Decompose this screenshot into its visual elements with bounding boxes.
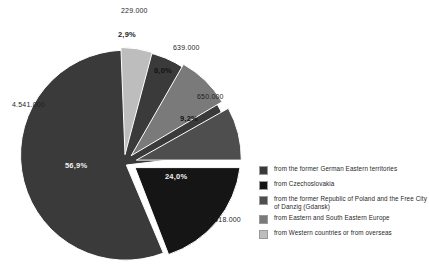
value-label-229000: 229.000 (121, 7, 148, 14)
legend-swatch-icon (259, 196, 268, 205)
percent-label-56-9: 56,9% (65, 161, 87, 170)
pie-graphic: 229.000 639.000 650.000 1.918.000 4.541.… (0, 0, 258, 273)
pie-chart: 229.000 639.000 650.000 1.918.000 4.541.… (0, 0, 429, 273)
percent-label-9-2: 9,2% (180, 114, 198, 123)
legend: from the former German Eastern territori… (259, 165, 427, 244)
legend-item-label: from Czechoslovakia (274, 180, 334, 188)
value-label-650000: 650.000 (197, 93, 224, 100)
value-label-4541000: 4.541.000 (12, 101, 45, 108)
percent-label-24-0: 24,0% (165, 172, 187, 181)
legend-swatch-icon (259, 166, 268, 175)
legend-item-western-countries-overseas[interactable]: from Western countries or from overseas (259, 229, 427, 241)
legend-swatch-icon (259, 230, 268, 239)
value-label-1918000: 1.918.000 (208, 216, 241, 223)
legend-item-poland-danzig[interactable]: from the former Republic of Poland and t… (259, 195, 427, 211)
pie-slices-svg (0, 0, 258, 273)
legend-item-czechoslovakia[interactable]: from Czechoslovakia (259, 180, 427, 192)
legend-item-label: from the former Republic of Poland and t… (274, 195, 427, 211)
legend-item-eastern-south-eastern-europe[interactable]: from Eastern and South Eastern Europe (259, 214, 427, 226)
percent-label-2-9: 2,9% (118, 30, 136, 39)
percent-label-8-0: 8,0% (154, 66, 172, 75)
legend-item-label: from Western countries or from overseas (274, 229, 392, 237)
legend-swatch-icon (259, 181, 268, 190)
legend-item-label: from the former German Eastern territori… (274, 165, 397, 173)
legend-item-german-eastern-territories[interactable]: from the former German Eastern territori… (259, 165, 427, 177)
legend-item-label: from Eastern and South Eastern Europe (274, 214, 390, 222)
value-label-639000: 639.000 (173, 44, 200, 51)
legend-swatch-icon (259, 215, 268, 224)
